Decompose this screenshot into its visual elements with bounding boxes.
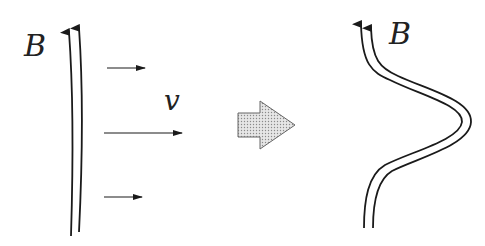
field-lines-bent: [361, 24, 471, 228]
transition-arrow-icon: [238, 101, 295, 149]
field-lines-straight: [69, 28, 82, 236]
field-label-left: B: [23, 28, 46, 63]
right-panel: B: [361, 16, 471, 228]
field-label-right: B: [388, 16, 411, 51]
left-panel: B v: [23, 28, 182, 236]
field-line-diagram: B v B: [0, 0, 485, 246]
velocity-label: v: [164, 84, 180, 117]
